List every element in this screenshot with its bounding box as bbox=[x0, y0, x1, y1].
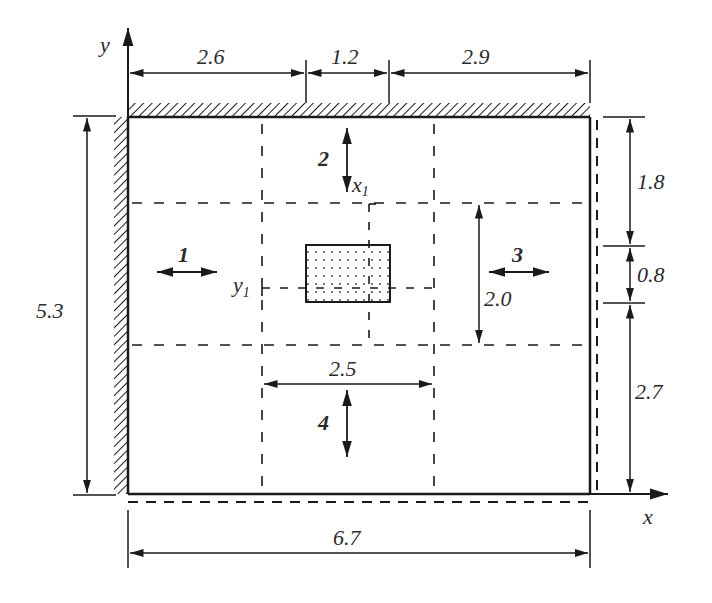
dashed-free-edges bbox=[128, 120, 597, 502]
cutout-region bbox=[306, 245, 390, 302]
dim-right-0-8: 0.8 bbox=[637, 262, 665, 287]
fixed-support-top bbox=[128, 103, 590, 117]
dim-left-5-3: 5.3 bbox=[36, 298, 64, 323]
dim-right-1-8: 1.8 bbox=[637, 169, 665, 194]
left-dimension-line bbox=[73, 116, 116, 495]
diagram-canvas: y x x1 y1 2.6 1.2 2.9 5.3 1.8 0.8 2.7 2.… bbox=[0, 0, 712, 603]
x-axis-label: x bbox=[642, 504, 653, 529]
dim-right-2-7: 2.7 bbox=[635, 379, 664, 404]
zone-label-4: 4 bbox=[317, 410, 329, 435]
zone-label-2: 2 bbox=[317, 146, 329, 171]
x1-axis-label: x1 bbox=[351, 172, 369, 199]
dim-inner-2-0: 2.0 bbox=[484, 286, 512, 311]
dim-top-2-9: 2.9 bbox=[462, 44, 490, 69]
dim-inner-2-5: 2.5 bbox=[329, 356, 357, 381]
dim-bottom-6-7: 6.7 bbox=[333, 525, 362, 550]
dim-top-2-6: 2.6 bbox=[197, 44, 225, 69]
y-axis-label: y bbox=[98, 32, 110, 57]
zone-label-1: 1 bbox=[178, 242, 189, 267]
y1-axis-label: y1 bbox=[231, 272, 250, 300]
dim-top-1-2: 1.2 bbox=[331, 44, 359, 69]
plate-diagram: y x x1 y1 2.6 1.2 2.9 5.3 1.8 0.8 2.7 2.… bbox=[0, 0, 712, 603]
zone-label-3: 3 bbox=[511, 242, 523, 267]
fixed-support-left bbox=[114, 117, 128, 494]
